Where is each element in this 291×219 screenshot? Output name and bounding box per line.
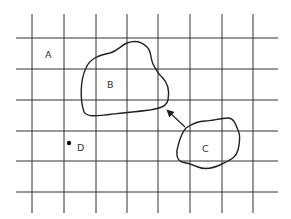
label-c: C	[202, 143, 209, 154]
arrow-c-to-b	[168, 111, 185, 127]
grid	[16, 14, 278, 213]
region-b-outline	[81, 42, 168, 116]
grid-diagram: A B C D	[0, 0, 291, 219]
point-d-dot	[67, 141, 71, 145]
label-d: D	[77, 142, 84, 153]
label-a: A	[45, 49, 52, 60]
label-b: B	[107, 79, 114, 90]
